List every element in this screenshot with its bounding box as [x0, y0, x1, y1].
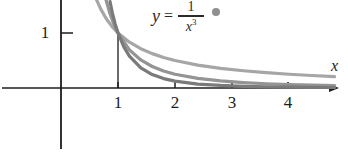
- x-tick-label-1: 1: [108, 93, 128, 113]
- equation-equals-sign: =: [164, 7, 173, 25]
- x-tick-label-3: 3: [222, 93, 242, 113]
- y-tick-label-1: 1: [35, 23, 55, 43]
- equation-fraction: 1 x3: [178, 0, 204, 33]
- function-graph-figure: 1 2 3 4 1 x y = 1 x3: [0, 0, 348, 155]
- curve-one-over-x-squared: [106, 0, 335, 86]
- x-tick-label-4: 4: [278, 93, 298, 113]
- fraction-numerator: 1: [185, 0, 198, 15]
- denominator-exponent: 3: [192, 17, 197, 27]
- equation-annotation: y = 1 x3: [152, 0, 220, 32]
- x-tick-label-2: 2: [165, 93, 185, 113]
- fraction-denominator: x3: [186, 17, 197, 34]
- equation-lhs: y: [152, 6, 160, 27]
- legend-dot-marker-icon: [212, 8, 220, 16]
- x-axis-label: x: [331, 57, 338, 75]
